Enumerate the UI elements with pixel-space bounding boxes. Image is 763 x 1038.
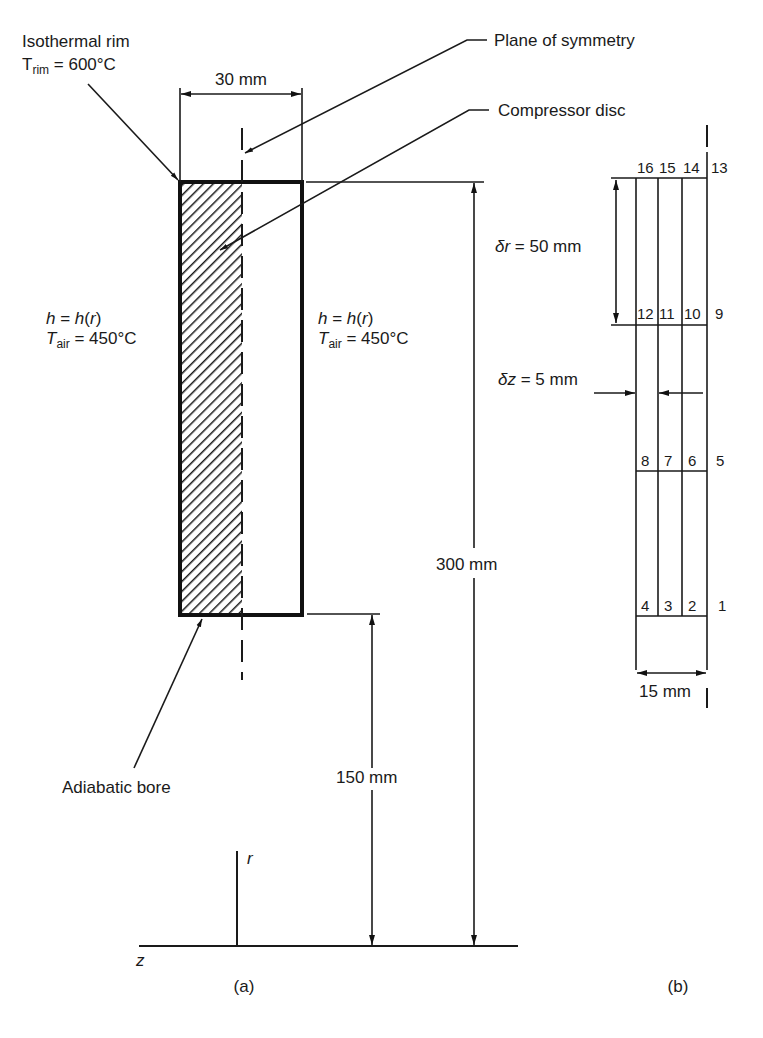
- left-tair-label: Tair = 450°C: [46, 329, 137, 351]
- dz-dim-label: δz = 5 mm: [498, 370, 578, 389]
- plane-of-symmetry-label: Plane of symmetry: [494, 31, 635, 50]
- node-label: 2: [688, 597, 696, 614]
- panel-b-caption: (b): [668, 977, 689, 996]
- node-label: 10: [684, 305, 701, 322]
- bore-leader: [134, 619, 202, 768]
- node-label: 15: [659, 159, 676, 176]
- panel-a: 30 mm Isothermal rim Trim = 600°C Plane …: [22, 31, 635, 996]
- disc-conduction-diagram: 30 mm Isothermal rim Trim = 600°C Plane …: [0, 0, 763, 1038]
- node-label: 4: [641, 597, 649, 614]
- node-label: 13: [711, 159, 728, 176]
- width-dim-label: 30 mm: [215, 70, 267, 89]
- right-tair-label: Tair = 450°C: [318, 329, 409, 351]
- adiabatic-bore-label: Adiabatic bore: [62, 778, 171, 797]
- right-h-label: h = h(r): [318, 309, 373, 328]
- disc-hatched-half: [180, 182, 242, 615]
- node-row-1: 16 15 14 13: [637, 159, 728, 176]
- panel-b: δr = 50 mm δz = 5 mm 15 mm 16 15 14 13 1…: [495, 125, 728, 996]
- rim-temperature: Trim = 600°C: [22, 55, 116, 77]
- node-label: 8: [641, 452, 649, 469]
- symmetry-leader: [245, 40, 487, 153]
- rim-leader: [88, 84, 178, 180]
- node-label: 7: [664, 452, 672, 469]
- node-label: 12: [637, 305, 654, 322]
- node-row-4: 4 3 2 1: [641, 597, 726, 614]
- node-label: 3: [664, 597, 672, 614]
- node-label: 9: [715, 305, 723, 322]
- node-label: 1: [718, 597, 726, 614]
- node-row-2: 12 11 10 9: [637, 305, 723, 322]
- compressor-disc-label: Compressor disc: [498, 101, 626, 120]
- node-label: 14: [683, 159, 700, 176]
- node-label: 16: [637, 159, 654, 176]
- node-label: 11: [659, 305, 675, 322]
- node-label: 5: [716, 452, 724, 469]
- panel-a-caption: (a): [234, 977, 255, 996]
- left-h-label: h = h(r): [46, 309, 101, 328]
- axis-r-label: r: [247, 849, 254, 868]
- axis-z-label: z: [135, 951, 145, 970]
- bore-dim-label: 150 mm: [336, 768, 397, 787]
- dr-dim-label: δr = 50 mm: [495, 237, 581, 256]
- height-dim-label: 300 mm: [436, 555, 497, 574]
- node-label: 6: [688, 452, 696, 469]
- mesh-width-label: 15 mm: [639, 682, 691, 701]
- rim-label: Isothermal rim: [22, 32, 130, 51]
